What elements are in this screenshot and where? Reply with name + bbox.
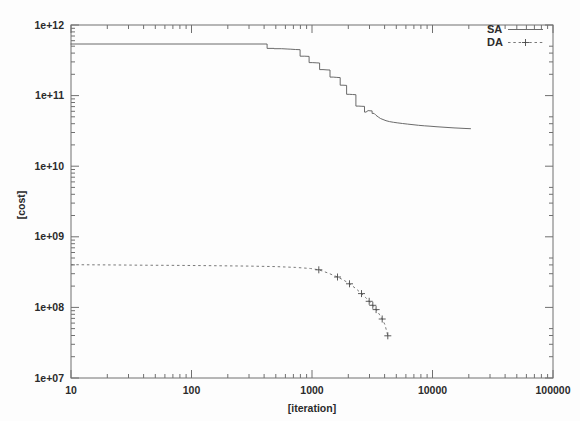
- x-tick-label: 100: [183, 384, 201, 396]
- x-axis-title: [iteration]: [288, 402, 336, 414]
- plot-background: [0, 0, 580, 421]
- y-tick-label: 1e+11: [35, 89, 64, 101]
- y-tick-label: 1e+07: [35, 372, 65, 384]
- chart-screenshot: 1e+07 1e+08 1e+09 1e+10 1e+11 1e+12 10 1…: [0, 0, 580, 421]
- legend-label-da: DA: [487, 36, 503, 48]
- y-tick-label: 1e+08: [35, 301, 65, 313]
- legend-label-sa: SA: [487, 23, 502, 35]
- y-axis-title: [cost]: [15, 191, 27, 220]
- y-tick-label: 1e+09: [35, 230, 65, 242]
- cost-vs-iteration-plot: 1e+07 1e+08 1e+09 1e+10 1e+11 1e+12 10 1…: [0, 0, 580, 421]
- x-tick-label: 100000: [535, 384, 570, 396]
- y-tick-label: 1e+12: [35, 19, 65, 31]
- x-tick-label: 10000: [418, 384, 447, 396]
- x-tick-label: 10: [65, 384, 77, 396]
- y-tick-label: 1e+10: [35, 160, 65, 172]
- x-tick-label: 1000: [300, 384, 324, 396]
